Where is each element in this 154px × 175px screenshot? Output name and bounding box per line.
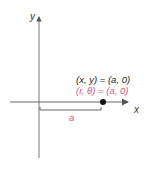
distance-bracket [40,107,101,110]
distance-label: a [69,113,74,123]
cartesian-coordinates: (x, y) = (a, 0) [76,75,130,85]
y-axis-label: y [30,12,35,22]
x-axis-label: x [134,105,139,115]
polar-coordinates: (r, θ) = (a, 0) [76,86,128,96]
point-marker [100,99,106,105]
